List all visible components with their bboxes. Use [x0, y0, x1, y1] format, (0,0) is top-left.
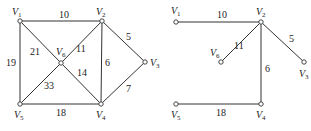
node-V2 [100, 19, 104, 23]
edge-weight: 33 [44, 80, 54, 91]
node-V1 [18, 19, 22, 23]
node-V5 [174, 102, 178, 106]
edge-weight: 11 [234, 40, 244, 51]
edge-V2-V3 [261, 22, 304, 62]
node-V3 [302, 60, 306, 64]
node-label: V2 [256, 6, 266, 19]
spanning-tree: 10115618V1V2V3V4V5V6 [171, 5, 309, 122]
node-label: V3 [299, 68, 309, 81]
edge-weight: 11 [76, 43, 86, 54]
node-label: V1 [12, 6, 22, 19]
edge-V2-V6 [61, 21, 102, 63]
edge-weight: 6 [105, 57, 110, 68]
edge-V3-V4 [101, 62, 145, 104]
node-label: V2 [96, 6, 106, 19]
node-label: V4 [256, 109, 266, 122]
edge-weight: 10 [217, 9, 227, 20]
edge-V2-V3 [102, 21, 145, 62]
edge-weight: 14 [77, 67, 87, 78]
edge-weight: 19 [6, 57, 16, 68]
edge-weight: 7 [126, 83, 131, 94]
edge-weight: 5 [289, 33, 294, 44]
edge-weight: 18 [56, 107, 66, 118]
node-label: V5 [14, 109, 24, 122]
edge-weight: 10 [59, 9, 69, 20]
node-V6 [59, 61, 63, 65]
node-label: V1 [171, 5, 181, 18]
edge-weight: 5 [126, 31, 131, 42]
graph-diagram: 10192111651433187V1V2V3V4V5V610115618V1V… [0, 0, 311, 131]
node-label: V5 [171, 109, 181, 122]
edge-V2-V4 [101, 21, 102, 104]
node-V3 [143, 60, 147, 64]
node-V1 [174, 20, 178, 24]
node-V4 [99, 102, 103, 106]
edge-V6-V5 [20, 63, 61, 104]
node-V2 [259, 20, 263, 24]
edge-V1-V6 [20, 21, 61, 63]
node-label: V6 [56, 46, 66, 59]
original-graph: 10192111651433187V1V2V3V4V5V6 [6, 6, 160, 122]
node-label: V4 [96, 109, 106, 122]
node-label: V3 [150, 57, 160, 70]
node-V4 [259, 102, 263, 106]
node-V5 [18, 102, 22, 106]
node-label: V6 [210, 47, 220, 60]
edge-weight: 21 [30, 46, 40, 57]
node-V6 [219, 60, 223, 64]
edge-weight: 18 [216, 107, 226, 118]
edge-weight: 6 [265, 63, 270, 74]
